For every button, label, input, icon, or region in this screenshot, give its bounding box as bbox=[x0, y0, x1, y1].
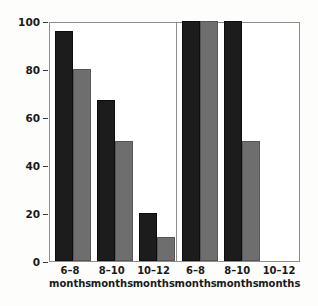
x-label-unit: months bbox=[175, 277, 217, 290]
bar bbox=[157, 237, 175, 261]
x-axis-category-label: 10–12months bbox=[133, 264, 175, 290]
bar bbox=[242, 141, 260, 261]
y-axis-tick-mark bbox=[43, 70, 48, 71]
x-label-age-range: 10–12 bbox=[258, 264, 300, 277]
bar bbox=[224, 21, 242, 261]
x-axis-tick-labels: 6–8months8–10months10–12months6–8months8… bbox=[49, 264, 300, 306]
x-label-age-range: 8–10 bbox=[216, 264, 258, 277]
x-axis-category-label: 8–10months bbox=[216, 264, 258, 290]
bar bbox=[97, 100, 115, 261]
x-label-age-range: 8–10 bbox=[91, 264, 133, 277]
x-axis-category-label: 10–12months bbox=[258, 264, 300, 290]
y-axis-tick-labels: 020406080100 bbox=[16, 0, 40, 306]
x-axis-category-label: 8–10months bbox=[91, 264, 133, 290]
x-label-age-range: 6–8 bbox=[49, 264, 91, 277]
plot-area bbox=[49, 22, 300, 262]
bar bbox=[55, 31, 73, 261]
x-axis-category-label: 6–8months bbox=[49, 264, 91, 290]
bar bbox=[139, 213, 157, 261]
y-axis-tick-mark bbox=[43, 166, 48, 167]
y-axis-tick-mark bbox=[43, 118, 48, 119]
bar bbox=[115, 141, 133, 261]
y-axis-tick-mark bbox=[43, 22, 48, 23]
x-label-unit: months bbox=[258, 277, 300, 290]
chart-figure: Infants able to discriminate (%) 0204060… bbox=[0, 0, 318, 306]
x-label-unit: months bbox=[133, 277, 175, 290]
y-axis-tick-mark bbox=[43, 262, 48, 263]
y-axis-tick-label: 60 bbox=[16, 112, 40, 124]
x-axis-category-label: 6–8months bbox=[175, 264, 217, 290]
y-axis-tick-label: 80 bbox=[16, 64, 40, 76]
x-label-unit: months bbox=[91, 277, 133, 290]
y-axis-tick-label: 40 bbox=[16, 160, 40, 172]
panel-divider bbox=[176, 23, 177, 261]
y-axis-tick-label: 100 bbox=[16, 16, 40, 28]
x-label-unit: months bbox=[216, 277, 258, 290]
x-label-unit: months bbox=[49, 277, 91, 290]
x-label-age-range: 10–12 bbox=[133, 264, 175, 277]
y-axis-tick-mark bbox=[43, 214, 48, 215]
bar bbox=[182, 21, 200, 261]
y-axis-tick-label: 0 bbox=[16, 256, 40, 268]
bar bbox=[200, 21, 218, 261]
y-axis-tick-label: 20 bbox=[16, 208, 40, 220]
x-label-age-range: 6–8 bbox=[175, 264, 217, 277]
bar bbox=[73, 69, 91, 261]
